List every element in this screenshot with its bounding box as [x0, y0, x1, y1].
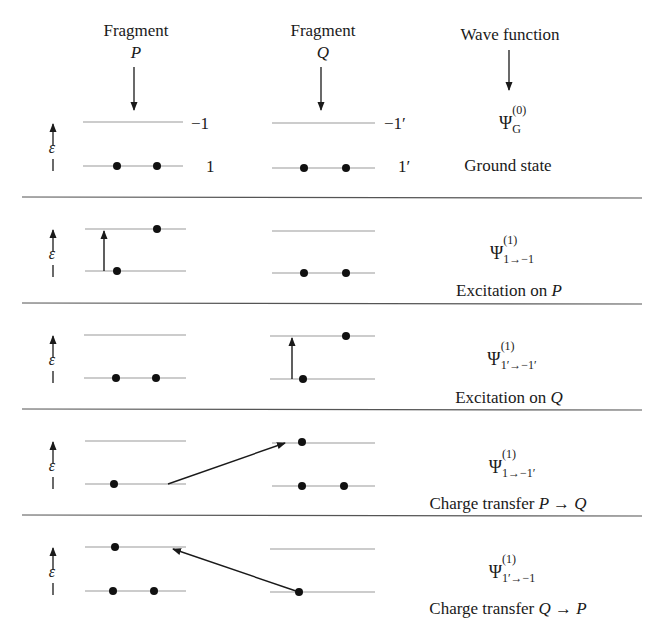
wave-function-symbol: Ψ(1)1→−1 — [490, 244, 534, 265]
fragment-q-symbol: Q — [317, 44, 329, 61]
energy-levels — [83, 122, 375, 592]
wave-function-symbol: Ψ(1)1→−1′ — [489, 458, 536, 479]
panel-caption: Charge transfer Q → P — [429, 600, 586, 617]
charge-transfer-qp-arrow-icon — [173, 549, 296, 591]
fragment-q-label: Fragment — [290, 22, 355, 39]
level-label-p-upper: −1 — [191, 115, 209, 132]
fragment-p-symbol: P — [131, 44, 141, 61]
charge-transfer-pq-arrow-icon — [168, 443, 285, 484]
panel-caption: Charge transfer P → Q — [429, 495, 586, 512]
epsilon-axis-label: ε — [49, 246, 55, 262]
energy-level-diagram — [0, 0, 663, 632]
fragment-p-label: Fragment — [103, 22, 168, 39]
panel-dividers — [22, 197, 642, 516]
transition-arrows — [104, 231, 296, 591]
epsilon-axis-label: ε — [49, 140, 55, 156]
level-label-q-upper: −1′ — [384, 115, 406, 132]
level-label-q-lower: 1′ — [398, 158, 410, 175]
panel-caption: Excitation on P — [456, 282, 562, 299]
wave-function-label: Wave function — [460, 26, 559, 43]
panel-caption: Excitation on Q — [455, 389, 563, 406]
wave-function-symbol: Ψ(1)1′→−1′ — [487, 350, 536, 371]
epsilon-axis-label: ε — [49, 458, 55, 474]
level-label-p-lower: 1 — [206, 158, 215, 175]
wave-function-symbol: Ψ(0)G — [499, 114, 521, 135]
panel-caption: Ground state — [464, 157, 551, 174]
wave-function-symbol: Ψ(1)1′→−1 — [489, 563, 536, 584]
epsilon-axis-label: ε — [49, 352, 55, 368]
epsilon-axis-label: ε — [49, 564, 55, 580]
